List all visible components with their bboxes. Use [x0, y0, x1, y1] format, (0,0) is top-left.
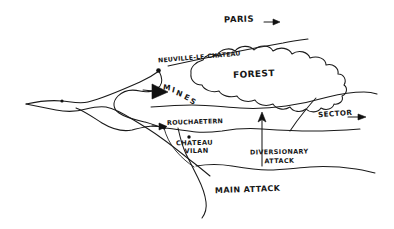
mines-attack-arrow-shaft: [143, 90, 153, 91]
label-mines: MINES: [163, 84, 196, 92]
north-boundary-line: [26, 71, 159, 104]
rouchaetern-arrow-shaft: [152, 126, 160, 127]
node-neuville-le-chateau: [156, 68, 161, 73]
label-paris: PARIS: [224, 15, 254, 25]
label-mines-letter: M: [162, 83, 171, 92]
sector-direction-arrow-head: [358, 114, 366, 120]
label-paris-text: PARIS: [224, 14, 254, 25]
lower-boundary-line: [196, 165, 375, 174]
label-chateau-vilan-line2: VILAN: [180, 148, 213, 155]
node-rouchaetern: [162, 126, 166, 130]
label-diversionary-attack-line2: ATTACK: [250, 157, 309, 165]
mines-salient-line: [114, 71, 162, 128]
sketch-map-canvas: PARIS NEUVILLE-LE-CHATEAU FOREST MINES R…: [0, 0, 394, 229]
label-chateau-vilan: CHATEAU VILAN: [176, 140, 213, 155]
west-to-rouchaetern-line: [76, 108, 164, 131]
label-diversionary-attack: DIVERSIONARY ATTACK: [250, 148, 309, 164]
node-west-junction: [60, 99, 63, 102]
paris-direction-arrow-head: [273, 19, 280, 25]
label-diversionary-attack-line1: DIVERSIONARY: [250, 148, 309, 156]
